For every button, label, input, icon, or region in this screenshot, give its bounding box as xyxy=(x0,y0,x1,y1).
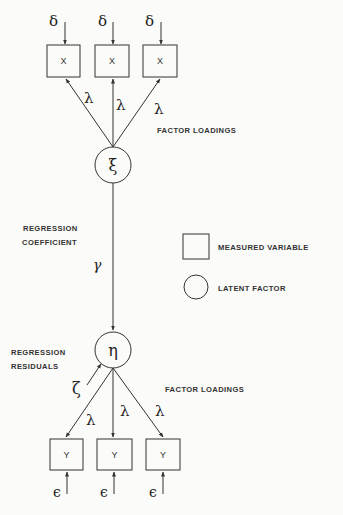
x-indicator-2: X xyxy=(95,45,129,77)
svg-text:δ: δ xyxy=(98,12,107,30)
lambda-x1: λ xyxy=(84,89,94,107)
legend-square-icon xyxy=(183,234,209,259)
lambda-y1: λ xyxy=(86,411,96,429)
zeta-arrow xyxy=(87,364,101,385)
svg-text:X: X xyxy=(157,56,163,66)
factor-loadings-label-top: FACTOR LOADINGS xyxy=(157,126,236,135)
factor-loadings-label-bottom: FACTOR LOADINGS xyxy=(165,385,244,394)
lambda-y2: λ xyxy=(120,402,130,420)
zeta-symbol: ζ xyxy=(72,379,81,398)
svg-text:δ: δ xyxy=(145,12,154,30)
svg-text:X: X xyxy=(109,56,115,66)
legend: MEASURED VARIABLE LATENT FACTOR xyxy=(183,234,309,299)
svg-text:Y: Y xyxy=(63,450,69,460)
regression-residuals-label-1: REGRESSION xyxy=(11,348,66,357)
eta-latent-factor: η xyxy=(95,332,131,368)
epsilon-error-2: ϵ xyxy=(100,472,114,500)
lambda-y3: λ xyxy=(155,402,165,420)
svg-text:ϵ: ϵ xyxy=(149,484,157,500)
gamma-symbol: γ xyxy=(93,257,102,273)
regression-coefficient-label-1: REGRESSION xyxy=(23,224,78,233)
y-indicator-1: Y xyxy=(50,439,83,470)
sem-diagram: X X X δ δ δ λ λ λ FACTOR LOADINGS ξ REGR… xyxy=(0,0,343,515)
y-indicator-2: Y xyxy=(97,439,132,470)
delta-error-1: δ xyxy=(49,12,65,44)
y-indicator-3: Y xyxy=(146,439,180,470)
svg-text:ϵ: ϵ xyxy=(53,484,61,500)
legend-circle-icon xyxy=(184,275,208,299)
x-indicator-3: X xyxy=(143,45,177,77)
delta-error-3: δ xyxy=(145,12,161,44)
svg-text:Y: Y xyxy=(160,450,166,460)
xi-latent-factor: ξ xyxy=(95,147,131,183)
svg-text:X: X xyxy=(60,56,66,66)
legend-latent-label: LATENT FACTOR xyxy=(218,284,286,293)
regression-residuals-label-2: RESIDUALS xyxy=(11,362,58,371)
xi-loading-arrows xyxy=(66,79,160,147)
epsilon-error-1: ϵ xyxy=(53,472,67,500)
regression-coefficient-label-2: COEFFICIENT xyxy=(22,238,77,247)
svg-text:ϵ: ϵ xyxy=(100,484,108,500)
svg-text:Y: Y xyxy=(111,450,117,460)
lambda-x3: λ xyxy=(154,100,164,118)
svg-text:η: η xyxy=(108,341,118,360)
delta-error-2: δ xyxy=(98,12,113,44)
legend-measured-label: MEASURED VARIABLE xyxy=(218,243,309,252)
svg-text:δ: δ xyxy=(49,12,58,30)
epsilon-error-3: ϵ xyxy=(149,472,163,500)
x-indicator-1: X xyxy=(47,45,80,77)
lambda-x2: λ xyxy=(116,96,126,114)
svg-text:ξ: ξ xyxy=(109,156,118,175)
